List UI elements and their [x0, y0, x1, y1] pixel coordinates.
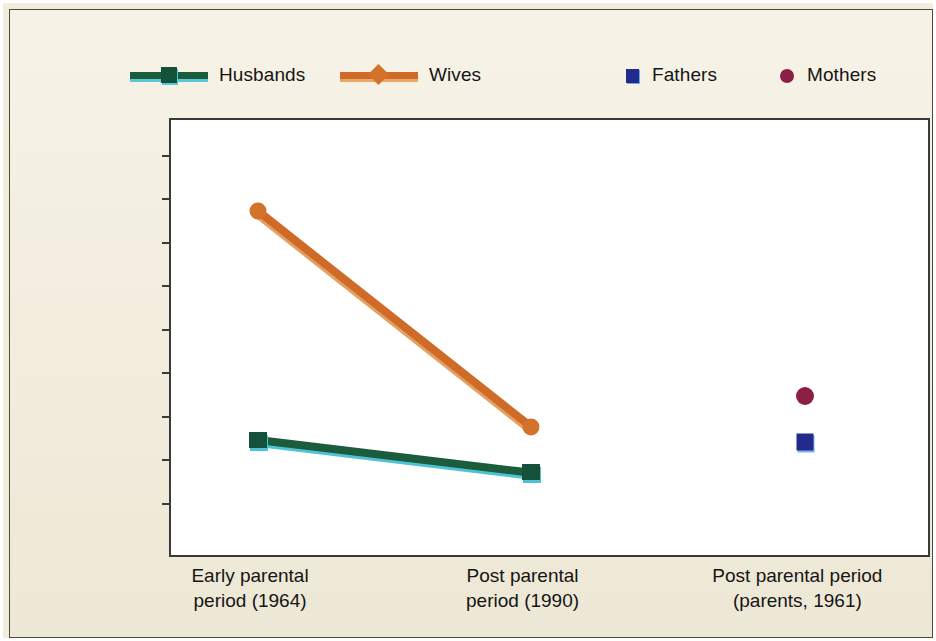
legend-label-fathers: Fathers [652, 64, 717, 86]
legend-item-mothers: Mothers [780, 58, 876, 92]
x-tick-label: Post parental period (parents, 1961) [682, 563, 912, 613]
data-point-husbands [249, 432, 267, 448]
x-tick-label: Post parental period (1990) [408, 563, 638, 613]
chart-legend: Husbands Wives Fathers Mothers [130, 58, 920, 92]
legend-label-mothers: Mothers [807, 64, 876, 86]
figure-inner-frame: Husbands Wives Fathers Mothers [9, 9, 933, 638]
data-point-fathers [797, 433, 814, 450]
data-point-mothers [796, 387, 814, 405]
mothers-circle-swatch-icon [780, 64, 797, 86]
legend-label-husbands: Husbands [219, 64, 305, 86]
plot-area [169, 118, 930, 557]
fathers-square-swatch-icon [625, 64, 642, 86]
data-point-wives [250, 203, 267, 220]
legend-item-wives: Wives [340, 58, 481, 92]
legend-item-fathers: Fathers [625, 58, 717, 92]
figure-container: Husbands Wives Fathers Mothers [0, 0, 936, 641]
wives-line-swatch-icon [340, 64, 418, 86]
data-point-husbands [522, 464, 540, 480]
legend-label-wives: Wives [429, 64, 481, 86]
x-tick-label: Early parental period (1964) [135, 563, 365, 613]
series-line-husbands [258, 436, 531, 477]
y-axis-ticks: 6058565452504846444240 [10, 10, 170, 641]
data-point-wives [522, 418, 539, 435]
series-line-wives [256, 208, 533, 430]
